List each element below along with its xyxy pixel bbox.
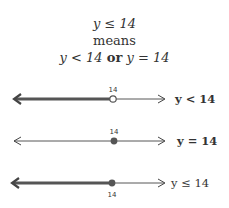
svg-text:14: 14: [108, 191, 117, 199]
closed-circle-icon: [109, 180, 116, 187]
number-line-less-equal: 14 y ≤ 14: [12, 176, 209, 199]
closed-circle-icon: [111, 138, 118, 145]
svg-text:14: 14: [109, 86, 118, 94]
number-line-less-than: 14 y < 14: [14, 86, 215, 106]
number-lines-figure: 14 y < 14 14 y = 14 14 y ≤ 14: [0, 0, 229, 208]
svg-text:y ≤ 14: y ≤ 14: [170, 176, 209, 190]
svg-text:14: 14: [110, 128, 119, 136]
number-line-equal: 14 y = 14: [14, 128, 217, 148]
svg-text:y = 14: y = 14: [176, 134, 217, 148]
open-circle-icon: [110, 96, 116, 102]
svg-text:y < 14: y < 14: [174, 92, 215, 106]
